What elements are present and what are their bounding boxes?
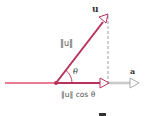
vector-projection-diagram: u ‖u‖ θ a ‖u‖ cos θ <box>0 0 150 116</box>
vector-a-arrowhead-icon <box>130 78 139 88</box>
label-projection: ‖u‖ cos θ <box>61 90 96 99</box>
vector-u-arrowhead-icon <box>99 14 108 23</box>
theta-angle-arc <box>66 70 72 83</box>
origin-point <box>54 81 58 85</box>
label-a: a <box>130 66 135 76</box>
label-u: u <box>92 4 99 14</box>
label-theta: θ <box>73 67 78 76</box>
cropped-mark <box>99 113 106 116</box>
vector-u-shaft <box>56 22 103 83</box>
label-norm-u: ‖u‖ <box>60 39 73 48</box>
